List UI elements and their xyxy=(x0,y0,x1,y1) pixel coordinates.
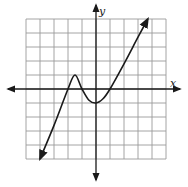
y-axis-label: y xyxy=(98,5,106,18)
coordinate-graph: y x xyxy=(0,0,188,187)
x-axis-label: x xyxy=(170,77,177,90)
axes xyxy=(8,5,180,180)
